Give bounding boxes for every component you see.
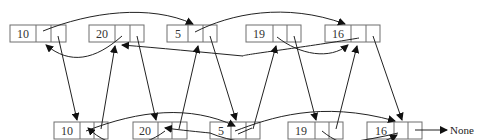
bottom-node-3: 19 [288, 122, 343, 139]
top-node-3: 19 [246, 25, 301, 42]
node-value: 20 [139, 124, 151, 138]
node-value: 10 [17, 27, 29, 41]
top-node-2: 5 [167, 25, 217, 42]
edges-cross-rows [58, 36, 402, 129]
node-value: 19 [253, 27, 265, 41]
terminal-arrow: None [415, 124, 474, 136]
bottom-node-0: 10 [54, 122, 108, 139]
linked-list-diagram: 10 20 5 19 16 10 20 5 [0, 0, 486, 140]
top-node-0: 10 [10, 25, 66, 42]
node-value: 16 [332, 27, 344, 41]
node-value: 10 [61, 124, 73, 138]
node-value: 20 [96, 27, 108, 41]
node-value: 19 [295, 124, 307, 138]
none-label: None [450, 124, 474, 136]
bottom-node-1: 20 [133, 122, 187, 139]
node-value: 5 [175, 27, 181, 41]
top-node-1: 20 [89, 25, 144, 42]
